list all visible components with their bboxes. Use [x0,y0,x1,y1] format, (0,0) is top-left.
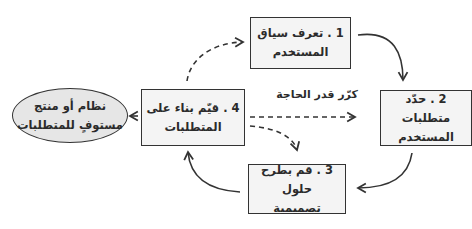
step-4-line2: المتطلبات [146,118,239,137]
step-1-line1: 1 . تعرف سياق [257,24,343,43]
step-4-line1: 4 . قيّم بناء على [146,99,239,118]
outcome-line2: مستوفٍ للمتطلبات [17,118,123,132]
step-4-box: 4 . قيّم بناء على المتطلبات [141,89,245,146]
step-3-line1: 3 . قم بطرح حلول [249,161,345,199]
step-3-box: 3 . قم بطرح حلول تصميمية [248,164,346,214]
arrow-step1-to-step2 [358,34,403,80]
step-2-line1: 2 . حدّد متطلبات [381,90,471,128]
step-3-line2: تصميمية [249,199,345,218]
loop-label: كرّر قدر الحاجة [262,88,372,101]
step-2-box: 2 . حدّد متطلبات المستخدم [380,90,472,146]
outcome-line1: نظام أو منتج [34,99,106,113]
step-1-box: 1 . تعرف سياق المستخدم [250,17,351,69]
step-1-line2: المستخدم [257,43,343,62]
dashed-arrow-step4-to-step3 [250,126,297,150]
step-2-line2: المستخدم [381,128,471,147]
dashed-arrow-step4-to-step1 [187,42,243,81]
arrow-step2-to-step3 [358,153,412,188]
arrow-step3-to-step4 [188,152,240,192]
outcome-ellipse: نظام أو منتج مستوفٍ للمتطلبات [12,88,128,143]
